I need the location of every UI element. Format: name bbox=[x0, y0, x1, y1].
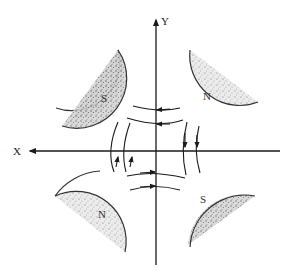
x-axis-label: X bbox=[13, 145, 21, 157]
quadrupole-diagram: S N N S Y X bbox=[0, 0, 289, 278]
pole-label-bottom-left: N bbox=[98, 208, 106, 220]
y-axis-label: Y bbox=[161, 15, 169, 27]
pole-label-top-right: N bbox=[203, 90, 211, 102]
magnet-top-right: N bbox=[190, 50, 258, 105]
field-lines-top bbox=[127, 106, 183, 124]
pole-label-top-left: S bbox=[101, 92, 107, 104]
magnet-bottom-left: N bbox=[55, 171, 126, 252]
magnet-top-left: S bbox=[56, 50, 127, 128]
field-lines-left bbox=[111, 122, 132, 172]
field-lines-right bbox=[183, 122, 200, 175]
pole-label-bottom-right: S bbox=[200, 193, 206, 205]
magnet-bottom-right: S bbox=[188, 193, 255, 247]
